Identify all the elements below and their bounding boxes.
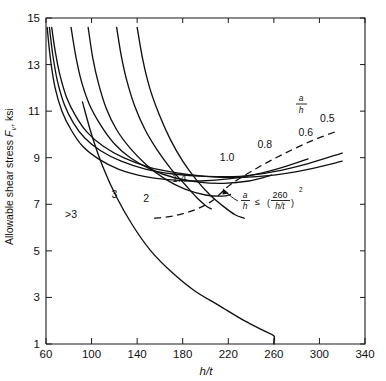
curve-label: 0.6 (298, 126, 313, 138)
legend-a-over-h: a h (296, 93, 307, 115)
y-tick-label: 5 (34, 245, 40, 257)
y-tick-label: 11 (28, 105, 40, 117)
x-tick-label: 140 (128, 348, 147, 360)
x-tick-label: 60 (40, 348, 53, 360)
curve-label: >3 (65, 208, 77, 220)
curve-label: 1.0 (220, 151, 235, 163)
data-curve (82, 102, 274, 344)
data-curves (47, 27, 342, 344)
x-tick-label: 100 (82, 348, 101, 360)
annotation-paren-close: ) (291, 198, 294, 208)
x-tick-label: 260 (264, 348, 283, 360)
annotation-arrowhead (223, 189, 230, 195)
y-tick-label: 9 (34, 152, 40, 164)
curve-label: 0.5 (320, 112, 335, 124)
curve-labels: 0.50.60.81.01.423>3 (65, 112, 335, 221)
annotation-paren-open: ( (267, 198, 270, 208)
data-curve (137, 27, 244, 218)
x-tick-label: 220 (219, 348, 238, 360)
y-tick-label: 3 (34, 291, 40, 303)
x-axis-title-text: h/t (200, 365, 214, 377)
boundary-annotation: a h ≤ ( 260 h/t ) 2 (223, 186, 304, 211)
annotation-exponent: 2 (299, 186, 303, 193)
y-tick-label: 1 (34, 338, 40, 350)
curve-label: 2 (143, 192, 149, 204)
x-axis-title: h/t (200, 365, 214, 377)
annotation-denominator: h (243, 201, 248, 211)
legend-denominator: h (299, 105, 304, 115)
svg-text:Allowable shear stress Fv, ksi: Allowable shear stress Fv, ksi (3, 108, 18, 245)
x-tick-label: 300 (310, 348, 329, 360)
chart-figure: 6010014018022026030034013579111315 0.50.… (0, 0, 386, 381)
x-tick-label: 340 (355, 348, 374, 360)
curve-label: 0.8 (257, 138, 272, 150)
curve-label: 3 (111, 188, 117, 200)
y-axis-title-units: , ksi (3, 108, 15, 127)
curve-label: 1.4 (172, 172, 187, 184)
y-tick-label: 15 (27, 12, 40, 24)
y-tick-label: 7 (34, 198, 40, 210)
annotation-frac-denominator: h/t (275, 201, 285, 211)
x-tick-label: 180 (173, 348, 192, 360)
annotation-numerator: a (243, 190, 248, 200)
annotation-frac-numerator: 260 (272, 190, 287, 200)
data-curve (47, 27, 308, 181)
y-tick-label: 13 (27, 59, 40, 71)
y-axis-title: Allowable shear stress Fv, ksi (3, 108, 18, 245)
y-axis-title-main: Allowable shear stress (3, 140, 15, 245)
annotation-relation: ≤ (255, 197, 260, 207)
allowable-shear-stress-chart: 6010014018022026030034013579111315 0.50.… (0, 0, 386, 381)
data-curve (88, 27, 230, 196)
legend-numerator: a (299, 93, 304, 103)
